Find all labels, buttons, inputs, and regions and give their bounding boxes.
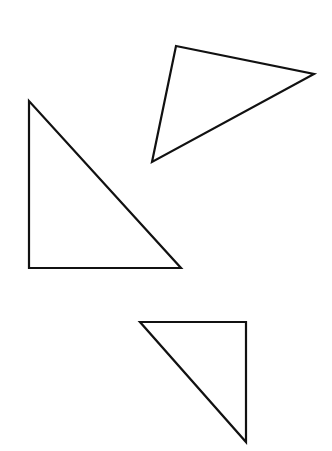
triangle-right-left (29, 101, 181, 268)
triangles-diagram (0, 0, 332, 451)
triangle-scalene (152, 46, 314, 162)
triangle-right-bottom (140, 322, 246, 442)
